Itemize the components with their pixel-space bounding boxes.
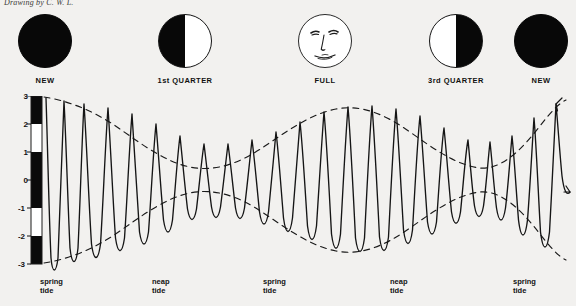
tide-curve-plot xyxy=(0,96,576,281)
tide-label-line2: tide xyxy=(40,287,63,296)
tide-chart: METERS 3 2 1 0 -1 -2 -3 xyxy=(0,96,576,281)
meter-scale-bar xyxy=(31,96,42,264)
upper-envelope-curve xyxy=(44,97,566,168)
tide-label-spring-1: spring tide xyxy=(40,278,63,295)
figure-credit: Drawing by C. W. L. xyxy=(4,0,74,7)
tide-label-neap-1: neap tide xyxy=(152,278,170,295)
moon-new-icon xyxy=(18,14,72,68)
y-tick-3: 3 xyxy=(12,92,28,101)
moon-new-icon xyxy=(514,14,568,68)
curve-arrowhead-icon xyxy=(556,98,570,192)
moon-phase-label: NEW xyxy=(10,76,80,85)
moon-full-icon xyxy=(298,14,352,68)
moon-first-quarter-icon xyxy=(158,14,212,68)
tide-label-row: spring tide neap tide spring tide neap t… xyxy=(0,278,576,306)
moon-phase-label: 1st QUARTER xyxy=(150,76,220,85)
moon-phase-row: NEW 1st QUARTER xyxy=(0,14,576,96)
tide-label-line2: tide xyxy=(513,287,536,296)
y-tick-2: 2 xyxy=(12,120,28,129)
y-tick-neg1: -1 xyxy=(9,204,25,213)
tide-label-spring-2: spring tide xyxy=(263,278,286,295)
moon-phase-new-1: NEW xyxy=(10,14,80,85)
y-tick-1: 1 xyxy=(12,148,28,157)
moon-phase-label: 3rd QUARTER xyxy=(421,76,491,85)
tide-moon-phase-figure: Drawing by C. W. L. NEW 1st QUARTER xyxy=(0,0,576,306)
tide-label-neap-2: neap tide xyxy=(390,278,408,295)
tide-label-line2: tide xyxy=(263,287,286,296)
y-tick-0: 0 xyxy=(12,176,28,185)
lower-envelope-curve xyxy=(44,192,566,263)
man-in-the-moon-face-icon xyxy=(299,15,353,69)
moon-phase-third-quarter: 3rd QUARTER xyxy=(421,14,491,85)
moon-phase-full: FULL xyxy=(290,14,360,85)
tide-oscillation-curve xyxy=(46,98,570,270)
moon-phase-label: NEW xyxy=(506,76,576,85)
tide-label-spring-3: spring tide xyxy=(513,278,536,295)
tide-label-line2: tide xyxy=(390,287,408,296)
tide-label-line2: tide xyxy=(152,287,170,296)
moon-phase-first-quarter: 1st QUARTER xyxy=(150,14,220,85)
y-tick-neg3: -3 xyxy=(9,260,25,269)
y-tick-neg2: -2 xyxy=(9,232,25,241)
moon-third-quarter-icon xyxy=(429,14,483,68)
moon-phase-new-2: NEW xyxy=(506,14,576,85)
moon-phase-label: FULL xyxy=(290,76,360,85)
